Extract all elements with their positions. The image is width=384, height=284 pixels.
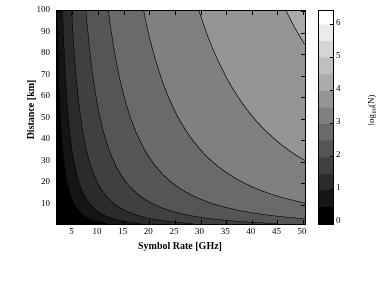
y-tick-right: [301, 205, 305, 206]
colorbar-tick-label: 3: [336, 116, 356, 126]
x-tick-top: [149, 11, 150, 15]
colorbar-title-sub: 10: [370, 107, 378, 114]
y-tick-right: [301, 97, 305, 98]
x-tick-top: [72, 11, 73, 15]
y-tick-right: [301, 162, 305, 163]
y-tick-right: [301, 183, 305, 184]
colorbar-tick: [330, 156, 333, 157]
figure-root: Symbol Rate [GHz] Distance [km] log10(N)…: [0, 0, 384, 284]
y-tick: [57, 140, 61, 141]
colorbar-tick-label: 5: [336, 50, 356, 60]
contour-surface: [57, 11, 305, 224]
y-tick: [57, 162, 61, 163]
y-tick-label: 40: [28, 133, 50, 143]
y-tick: [57, 76, 61, 77]
x-tick: [124, 220, 125, 224]
x-tick-top: [124, 11, 125, 15]
colorbar-gradient: [319, 11, 333, 224]
x-tick: [303, 220, 304, 224]
x-tick: [252, 220, 253, 224]
contour-plot-area: [56, 10, 306, 225]
x-tick-top: [98, 11, 99, 15]
y-tick-label: 80: [28, 47, 50, 57]
colorbar-tick-label: 4: [336, 83, 356, 93]
y-tick: [57, 183, 61, 184]
colorbar-title: log10(N): [366, 50, 378, 170]
y-tick: [57, 119, 61, 120]
colorbar-title-base: log: [366, 114, 376, 126]
y-tick: [57, 33, 61, 34]
x-tick-label: 50: [287, 226, 317, 236]
colorbar-tick: [330, 189, 333, 190]
colorbar-tick-label: 6: [336, 17, 356, 27]
colorbar-tick-label: 1: [336, 182, 356, 192]
colorbar: [318, 10, 334, 225]
x-tick-top: [226, 11, 227, 15]
y-tick-label: 50: [28, 112, 50, 122]
y-tick-right: [301, 11, 305, 12]
colorbar-tick-label: 0: [336, 215, 356, 225]
x-axis-title: Symbol Rate [GHz]: [56, 240, 304, 251]
colorbar-tick: [330, 90, 333, 91]
x-tick: [98, 220, 99, 224]
y-tick-label: 30: [28, 155, 50, 165]
y-tick: [57, 205, 61, 206]
x-tick-top: [277, 11, 278, 15]
y-tick-label: 10: [28, 198, 50, 208]
colorbar-tick: [330, 24, 333, 25]
x-tick: [201, 220, 202, 224]
x-tick-top: [175, 11, 176, 15]
colorbar-tick-label: 2: [336, 149, 356, 159]
y-tick-right: [301, 140, 305, 141]
x-tick-top: [201, 11, 202, 15]
colorbar-tick: [330, 57, 333, 58]
y-tick-right: [301, 33, 305, 34]
colorbar-title-tail: (N): [366, 95, 376, 108]
x-tick: [226, 220, 227, 224]
y-tick-label: 90: [28, 26, 50, 36]
y-tick: [57, 54, 61, 55]
x-tick-top: [252, 11, 253, 15]
y-tick-right: [301, 76, 305, 77]
y-tick-label: 100: [28, 4, 50, 14]
colorbar-tick: [330, 123, 333, 124]
y-tick: [57, 97, 61, 98]
x-tick: [277, 220, 278, 224]
y-tick-label: 20: [28, 176, 50, 186]
y-tick-label: 70: [28, 69, 50, 79]
x-tick: [175, 220, 176, 224]
y-tick-right: [301, 119, 305, 120]
y-tick-right: [301, 54, 305, 55]
x-tick: [149, 220, 150, 224]
y-tick-label: 60: [28, 90, 50, 100]
y-tick: [57, 11, 61, 12]
x-tick: [72, 220, 73, 224]
colorbar-tick: [330, 222, 333, 223]
